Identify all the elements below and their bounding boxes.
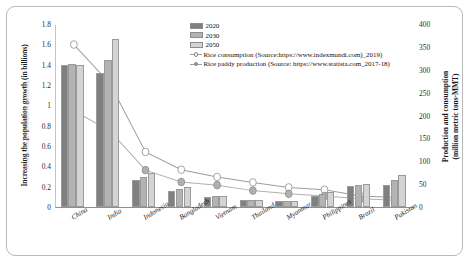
- x-tick-label: Brazil: [357, 206, 376, 222]
- open-circle-marker-icon: [190, 51, 202, 58]
- legend-label: 2030: [206, 31, 220, 41]
- legend-label: Rice paddy production (Source: https://w…: [204, 59, 390, 69]
- chart-legend: 202020302050Rice consumption (Source:htt…: [190, 21, 390, 69]
- bar: [383, 185, 390, 207]
- y-tick-left: 1.6: [31, 41, 51, 49]
- bar: [212, 196, 219, 207]
- bar-group: [128, 25, 164, 207]
- legend-item-bar[interactable]: 2050: [190, 40, 390, 50]
- bar: [148, 173, 155, 207]
- legend-swatch-icon: [190, 42, 203, 48]
- y-tick-right: 150: [419, 135, 430, 143]
- bar: [132, 180, 139, 207]
- bar: [398, 175, 405, 207]
- bar: [184, 187, 191, 207]
- y-tick-left: 0.6: [31, 143, 51, 151]
- legend-item-bar[interactable]: 2020: [190, 21, 390, 31]
- y-tick-right: 350: [419, 44, 430, 52]
- bar: [247, 200, 254, 207]
- y-tick-left: 1: [31, 102, 51, 110]
- right-axis-title: Production and consumption (million metr…: [441, 27, 460, 207]
- legend-label: Rice consumption (Source:https://www.ind…: [204, 50, 383, 60]
- y-tick-left: 0.2: [31, 184, 51, 192]
- left-axis-title-group: Increasing the population growth (in bil…: [11, 21, 29, 221]
- bar: [140, 177, 147, 208]
- bar: [275, 201, 282, 207]
- y-tick-right: 250: [419, 90, 430, 98]
- right-axis-title-group: Production and consumption (million metr…: [438, 21, 460, 221]
- y-tick-right: 100: [419, 158, 430, 166]
- right-axis-title-line2: (million metric tons-MMT): [450, 74, 459, 160]
- bar-group: [92, 25, 128, 207]
- x-tick-label: China: [70, 206, 89, 222]
- legend-item-line[interactable]: Rice paddy production (Source: https://w…: [190, 59, 390, 69]
- bar: [96, 73, 103, 207]
- bar: [240, 200, 247, 207]
- left-axis-watermark: Source: https://www.wikipedia.org: [23, 40, 30, 210]
- y-tick-right: 50: [419, 181, 426, 189]
- x-tick-label: India: [106, 207, 123, 222]
- bar-group: [56, 25, 92, 207]
- y-tick-left: 0.8: [31, 123, 51, 131]
- legend-swatch-icon: [190, 23, 203, 29]
- y-tick-right: 300: [419, 67, 430, 75]
- bar: [219, 196, 226, 207]
- bar: [283, 201, 290, 207]
- y-tick-left: 0.4: [31, 163, 51, 171]
- legend-label: 2020: [206, 21, 220, 31]
- y-tick-left: 1.2: [31, 82, 51, 90]
- y-tick-right: 200: [419, 113, 430, 121]
- bar: [327, 192, 334, 207]
- filled-circle-marker-icon: [190, 61, 202, 68]
- y-tick-left: 0: [31, 204, 51, 212]
- legend-item-bar[interactable]: 2030: [190, 31, 390, 41]
- bar: [112, 39, 119, 207]
- left-axis-ticks: 1.81.61.41.210.80.60.40.20: [33, 25, 53, 208]
- bar: [176, 189, 183, 207]
- bar: [255, 200, 262, 207]
- x-axis-labels: ChinaIndiaIndonesiaBangladeshVietnamThai…: [55, 211, 414, 263]
- bar: [76, 65, 83, 207]
- bar: [363, 184, 370, 207]
- y-tick-right: 400: [419, 21, 430, 29]
- bar: [319, 194, 326, 207]
- right-axis-title-line1: Production and consumption: [441, 71, 450, 162]
- right-axis-ticks: 400350300250200150100500: [416, 25, 438, 208]
- legend-swatch-icon: [190, 32, 203, 38]
- bar: [104, 60, 111, 207]
- y-tick-left: 1.8: [31, 21, 51, 29]
- chart-frame: Increasing the population growth (in bil…: [6, 6, 463, 256]
- bar: [355, 185, 362, 207]
- bar: [391, 180, 398, 207]
- legend-label: 2050: [206, 40, 220, 50]
- y-tick-left: 1.4: [31, 62, 51, 70]
- y-tick-right: 0: [419, 204, 423, 212]
- legend-item-line[interactable]: Rice consumption (Source:https://www.ind…: [190, 50, 390, 60]
- bar: [68, 64, 75, 207]
- bar: [61, 65, 68, 207]
